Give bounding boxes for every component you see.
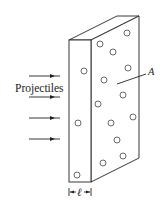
hole xyxy=(100,160,106,166)
hole xyxy=(95,101,101,107)
projectile-arrow xyxy=(29,74,60,78)
slab-area-face xyxy=(91,16,139,182)
hole xyxy=(120,153,126,159)
hole xyxy=(125,65,131,71)
hole xyxy=(114,137,120,143)
area-label: A xyxy=(147,66,155,77)
hole xyxy=(108,120,114,126)
hole xyxy=(110,49,116,55)
hole xyxy=(101,77,107,83)
hole xyxy=(120,92,126,98)
projectile-arrow xyxy=(29,95,60,99)
hole xyxy=(97,41,103,47)
slab-front-face xyxy=(69,40,91,182)
projectiles-label: Projectiles xyxy=(15,82,64,95)
hole xyxy=(75,120,81,126)
hole xyxy=(74,172,80,178)
thickness-label: ℓ xyxy=(77,186,82,198)
hole xyxy=(124,30,130,36)
hole xyxy=(130,114,136,120)
slab-diagram: Projectiles A ℓ xyxy=(0,0,168,209)
hole xyxy=(81,68,87,74)
projectile-arrow xyxy=(29,137,60,141)
thickness-dimension: ℓ xyxy=(69,186,91,198)
projectile-arrow xyxy=(29,116,60,120)
